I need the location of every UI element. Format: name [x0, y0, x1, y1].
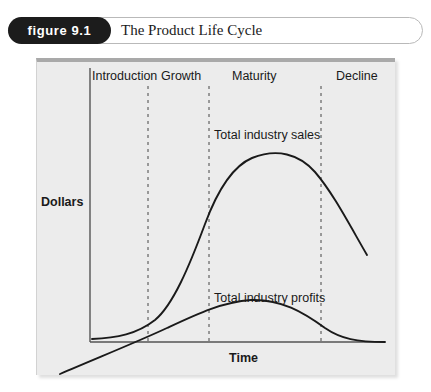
stage-label-maturity: Maturity: [232, 69, 277, 83]
stage-label-introduction: Introduction: [92, 69, 157, 83]
stage-label-decline: Decline: [336, 69, 378, 83]
profits-curve-annotation: Total industry profits: [214, 291, 325, 305]
sales-curve-annotation: Total industry sales: [214, 128, 320, 142]
figure-title: The Product Life Cycle: [121, 17, 262, 44]
chart-panel: Introduction Growth Maturity Decline Tot…: [36, 58, 395, 375]
y-axis-title: Dollars: [41, 195, 83, 209]
x-axis-title: Time: [229, 351, 258, 365]
product-life-cycle-chart: Introduction Growth Maturity Decline Tot…: [37, 62, 396, 379]
total-industry-sales-curve: [92, 153, 367, 339]
stage-label-growth: Growth: [161, 69, 201, 83]
figure-number-badge: figure 9.1: [8, 17, 111, 44]
